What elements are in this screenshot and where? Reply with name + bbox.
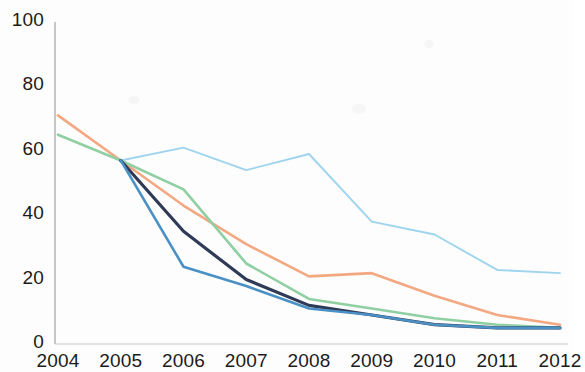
y-tick-label: 20 (0, 267, 44, 289)
series-line-green-series (58, 135, 560, 328)
y-tick-label: 80 (0, 73, 44, 95)
x-tick-label: 2012 (531, 350, 585, 372)
y-tick-label: 60 (0, 138, 44, 160)
axis-lines (55, 22, 568, 344)
series-group (58, 115, 560, 328)
x-tick-label: 2010 (406, 350, 464, 372)
x-tick-label: 2004 (29, 350, 87, 372)
x-tick-label: 2008 (280, 350, 338, 372)
x-tick-label: 2009 (343, 350, 401, 372)
series-line-orange-series (58, 115, 560, 324)
y-tick-label: 100 (0, 9, 44, 31)
x-tick-label: 2011 (468, 350, 526, 372)
y-tick-label: 40 (0, 202, 44, 224)
x-tick-label: 2007 (217, 350, 275, 372)
x-tick-label: 2005 (92, 350, 150, 372)
series-line-light-blue-series (121, 148, 560, 274)
x-tick-label: 2006 (155, 350, 213, 372)
